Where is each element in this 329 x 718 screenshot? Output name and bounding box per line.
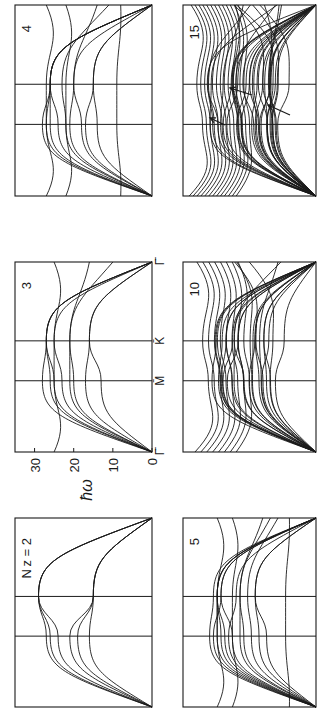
dispersion-branch	[201, 262, 218, 452]
dispersion-branch	[42, 5, 152, 196]
dispersion-branch	[46, 262, 152, 452]
dispersion-branch	[54, 262, 152, 452]
dispersion-branch	[286, 518, 290, 707]
dispersion-branch	[66, 5, 72, 196]
figure: N z = 234510150102030ħωΓ̄M̄K̄Γ̄	[0, 0, 329, 718]
panel-nz2: N z = 2	[15, 518, 152, 707]
panel-4: 4	[15, 5, 152, 196]
panel-label: 4	[19, 25, 34, 32]
x-axis: Γ̄M̄K̄Γ̄	[153, 257, 167, 456]
x-tick-label: M̄	[153, 376, 167, 386]
y-tick-label: 20	[67, 458, 82, 472]
panel-5: 5	[183, 518, 316, 707]
y-tick-label: 30	[28, 458, 43, 472]
x-tick-label: Γ̄	[153, 257, 167, 266]
dispersion-branch	[46, 5, 152, 196]
y-axis-label: ħω	[78, 479, 95, 500]
dispersion-branch	[205, 5, 222, 196]
panel-label: 15	[187, 25, 202, 39]
phonon-dispersion-figure: N z = 234510150102030ħωΓ̄M̄K̄Γ̄	[0, 0, 329, 718]
dispersion-branch	[219, 262, 317, 452]
dispersion-branch	[117, 5, 121, 196]
dispersion-branch	[74, 5, 152, 196]
dispersion-branch	[224, 262, 240, 452]
dispersion-branch	[221, 518, 316, 707]
y-axis: 0102030ħω	[28, 448, 160, 501]
y-tick-label: 10	[106, 458, 121, 472]
panel-frame	[15, 518, 152, 707]
y-tick-label: 0	[145, 458, 160, 465]
panel-3: 3	[15, 262, 152, 452]
x-tick-label: K̄	[153, 337, 167, 345]
panel-label: 10	[187, 282, 202, 296]
panel-15: 15	[183, 5, 316, 196]
panel-frame	[15, 5, 152, 196]
panel-label: 5	[187, 538, 202, 545]
dispersion-branch	[89, 518, 152, 707]
panel-10: 10	[183, 262, 316, 452]
dispersion-branch	[89, 262, 152, 452]
dispersion-branch	[46, 262, 152, 452]
x-tick-label: Γ̄	[153, 447, 167, 456]
panel-label: 3	[19, 282, 34, 289]
dispersion-branch	[240, 518, 316, 707]
panel-label: N z = 2	[19, 538, 34, 579]
dispersion-branch	[54, 262, 61, 452]
